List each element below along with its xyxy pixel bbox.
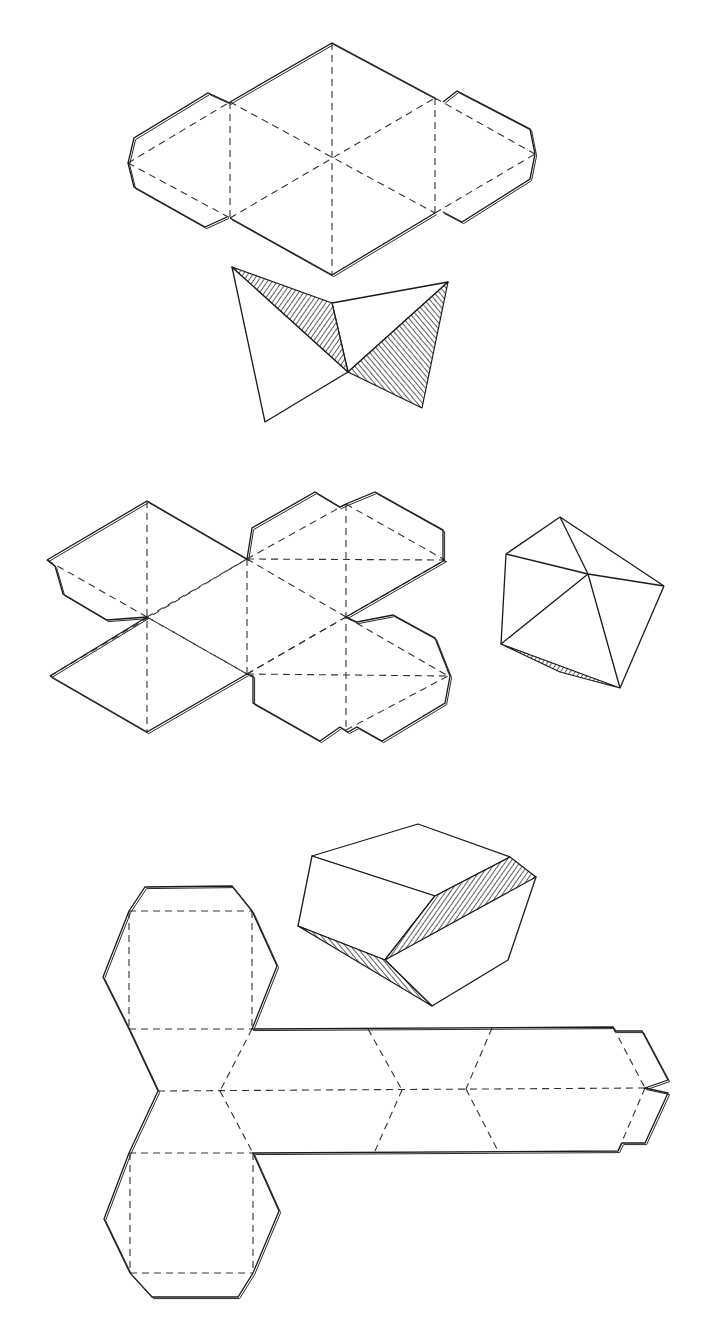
fold-line <box>466 1089 498 1151</box>
cut-line-shadow <box>130 95 232 229</box>
cut-line-shadow <box>52 619 149 678</box>
cut-line-shadow <box>232 215 437 277</box>
cut-line <box>346 560 445 617</box>
fold-line <box>466 1028 492 1089</box>
cut-line-shadow <box>49 503 249 562</box>
fold-line <box>220 1091 253 1153</box>
cut-line-shadow <box>49 562 149 622</box>
octahedron-folding-view <box>232 267 448 422</box>
cut-line <box>50 674 247 732</box>
fold-line <box>147 559 247 617</box>
edge-line <box>506 554 588 574</box>
fold-line <box>375 1090 402 1151</box>
cut-line-shadow <box>52 676 249 734</box>
fold-line <box>613 1027 645 1088</box>
fold-line <box>346 617 448 676</box>
cut-line-shadow <box>348 562 447 619</box>
octahedron-net-hexagon <box>128 43 537 277</box>
edge-line <box>560 517 664 586</box>
fold-line <box>247 559 445 560</box>
cut-line <box>50 617 147 676</box>
edge-line <box>506 517 560 554</box>
hatched-face <box>501 644 620 688</box>
fold-line <box>247 559 346 617</box>
cut-line-shadow <box>131 888 254 913</box>
edge-line <box>501 574 588 644</box>
fold-line <box>435 154 535 213</box>
hexagonal-prism-view <box>298 824 536 1006</box>
cut-line <box>346 492 445 560</box>
fold-line <box>618 1088 645 1151</box>
icosahedron-net <box>47 492 452 743</box>
fold-line <box>247 674 448 676</box>
cut-line <box>247 615 450 741</box>
fold-line <box>247 617 346 674</box>
cut-line-shadow <box>249 617 452 743</box>
edge-line <box>620 586 664 688</box>
fold-line <box>128 163 230 218</box>
cut-line <box>129 886 252 911</box>
edge-line <box>501 554 506 644</box>
fold-line <box>247 504 346 559</box>
cut-line-shadow <box>249 494 348 561</box>
fold-line <box>220 1029 252 1091</box>
fold-line <box>368 1029 402 1090</box>
cut-line-shadow <box>232 45 437 104</box>
fold-line <box>346 676 448 730</box>
edge-line <box>588 574 664 586</box>
fold-line <box>346 504 445 560</box>
icosahedron-folded-view <box>501 517 664 688</box>
edge-line <box>588 574 620 688</box>
polyhedra-nets-diagram <box>0 0 704 1317</box>
